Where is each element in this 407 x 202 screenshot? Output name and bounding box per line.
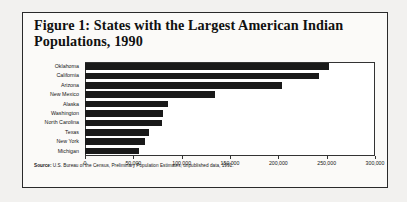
- bar-row: [85, 128, 375, 137]
- bar-row: [85, 71, 375, 80]
- bar: [85, 63, 329, 70]
- y-axis-category-labels: OklahomaCaliforniaArizonaNew MexicoAlask…: [23, 62, 82, 156]
- source-text: U.S. Bureau of the Census, Preliminary P…: [52, 163, 234, 168]
- y-axis-label: Alaska: [23, 100, 82, 109]
- bar: [85, 73, 319, 80]
- figure-title: Figure 1: States with the Largest Americ…: [34, 18, 372, 49]
- bar: [85, 120, 162, 127]
- source-note: Source: U.S. Bureau of the Census, Preli…: [34, 163, 233, 168]
- bars-layer: [85, 62, 375, 156]
- x-axis-tick-label: 200,000: [269, 160, 288, 166]
- bar-row: [85, 81, 375, 90]
- bar-row: [85, 147, 375, 156]
- x-axis-tick-label: 250,000: [317, 160, 336, 166]
- y-axis-label: Washington: [23, 109, 82, 118]
- bar: [85, 82, 282, 89]
- y-axis-label: Oklahoma: [23, 62, 82, 71]
- y-axis-label: California: [23, 71, 82, 80]
- bar: [85, 91, 215, 98]
- bar: [85, 138, 145, 145]
- bar-row: [85, 90, 375, 99]
- bar: [85, 110, 163, 117]
- bar: [85, 148, 139, 155]
- source-label: Source:: [34, 163, 52, 168]
- bar-row: [85, 109, 375, 118]
- y-axis-label: Michigan: [23, 147, 82, 156]
- y-axis-label: Texas: [23, 128, 82, 137]
- figure-container: Figure 1: States with the Largest Americ…: [22, 12, 388, 188]
- y-axis-label: New York: [23, 137, 82, 146]
- y-axis-label: Arizona: [23, 81, 82, 90]
- y-axis-label: North Carolina: [23, 118, 82, 127]
- bar-row: [85, 62, 375, 71]
- bar: [85, 101, 168, 108]
- bar-row: [85, 100, 375, 109]
- bar-chart: OklahomaCaliforniaArizonaNew MexicoAlask…: [23, 60, 389, 170]
- y-axis-label: New Mexico: [23, 90, 82, 99]
- x-axis-tick-label: 300,000: [366, 160, 385, 166]
- bar-row: [85, 137, 375, 146]
- bar-row: [85, 118, 375, 127]
- bar: [85, 129, 149, 136]
